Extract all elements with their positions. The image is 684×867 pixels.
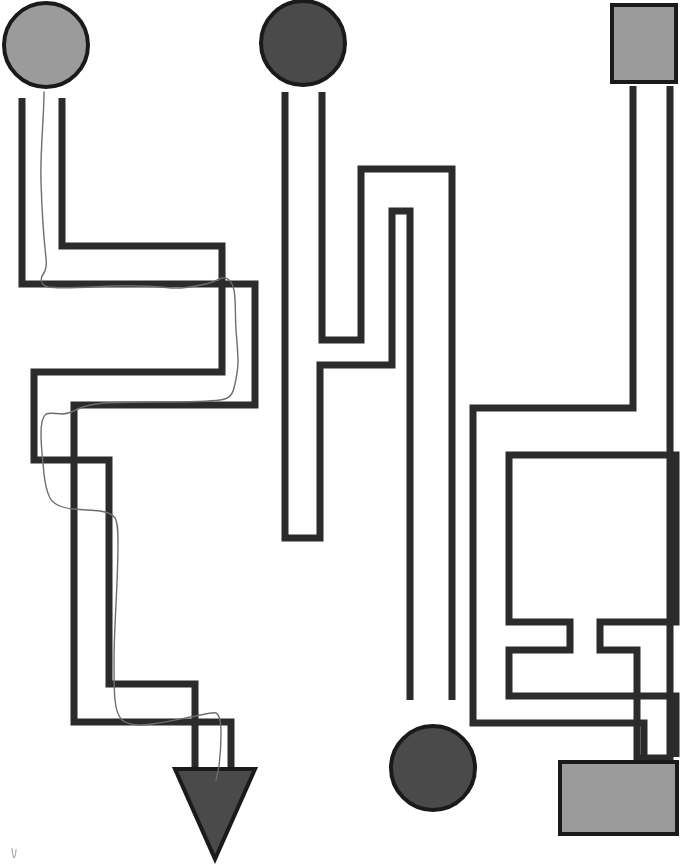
start-circle-light [4, 3, 88, 87]
maze-worksheet-page [0, 0, 684, 867]
maze-canvas [0, 0, 684, 867]
end-circle-dark-bottom [391, 726, 475, 810]
paper-background [0, 0, 684, 867]
end-rectangle-light [560, 762, 677, 834]
start-square-light [612, 5, 676, 82]
start-circle-dark-top [261, 1, 345, 85]
